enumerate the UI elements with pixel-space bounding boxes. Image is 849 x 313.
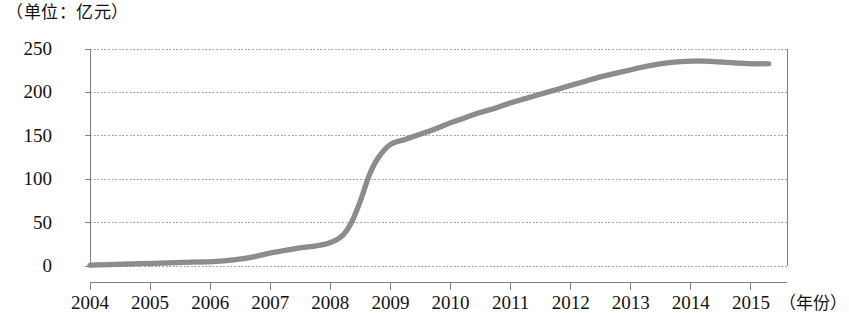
x-axis-title: （年份） bbox=[779, 294, 847, 313]
x-tick-label-2005: 2005 bbox=[131, 293, 169, 312]
x-tick-label-2008: 2008 bbox=[311, 293, 349, 312]
x-tick-label-2004: 2004 bbox=[71, 293, 109, 312]
x-tick-label-2007: 2007 bbox=[251, 293, 289, 312]
x-tick-label-2014: 2014 bbox=[672, 293, 710, 312]
x-tick-label-2015: 2015 bbox=[732, 293, 770, 312]
x-tick-label-2011: 2011 bbox=[492, 293, 529, 312]
x-tick-label-2010: 2010 bbox=[432, 293, 470, 312]
x-tick-label-2009: 2009 bbox=[371, 293, 409, 312]
x-tick-label-2012: 2012 bbox=[552, 293, 590, 312]
x-tick-label-2013: 2013 bbox=[612, 293, 650, 312]
x-tick-label-2006: 2006 bbox=[191, 293, 229, 312]
